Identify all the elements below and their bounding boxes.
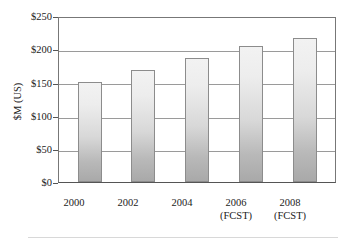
x-tick-label-2008: 2008 (FCST) xyxy=(255,196,325,222)
y-tick-mark-0 xyxy=(53,183,58,184)
y-tick-label-0: $0 xyxy=(8,178,52,188)
y-tick-label-150: $150 xyxy=(8,79,52,89)
x-tick-label-2006-main: 2006 xyxy=(226,197,247,208)
x-tick-label-2008-sub: (FCST) xyxy=(255,209,325,222)
bar-2004 xyxy=(185,58,209,182)
bar-2002 xyxy=(131,70,155,182)
y-tick-label-100: $100 xyxy=(8,112,52,122)
bar-chart-figure: $M (US) $250 $200 $150 $100 $50 $0 2000 … xyxy=(0,0,352,245)
x-tick-label-2008-main: 2008 xyxy=(280,197,301,208)
y-tick-label-50: $50 xyxy=(8,145,52,155)
bottom-divider-rule xyxy=(28,237,338,238)
bar-2006 xyxy=(239,46,263,182)
x-tick-label-2000-main: 2000 xyxy=(64,197,85,208)
x-tick-label-2002-main: 2002 xyxy=(118,197,139,208)
y-tick-label-200: $200 xyxy=(8,45,52,55)
bar-2000 xyxy=(78,82,102,182)
plot-area xyxy=(58,17,336,183)
bar-2008 xyxy=(293,38,317,182)
y-tick-label-250: $250 xyxy=(8,12,52,22)
x-tick-label-2004-main: 2004 xyxy=(172,197,193,208)
